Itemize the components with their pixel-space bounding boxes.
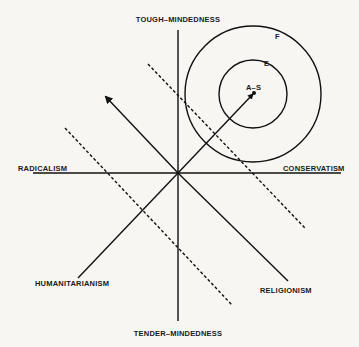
humanitarianism-axis	[78, 173, 178, 278]
label-f: F	[275, 32, 280, 41]
label-radicalism: RADICALISM	[18, 164, 67, 173]
label-religionism: RELIGIONISM	[260, 286, 312, 295]
arrow-upper-left	[106, 97, 178, 173]
label-e: E	[264, 59, 269, 68]
tough-tender-minded-diagram: TOUGH–MINDEDNESS TENDER–MINDEDNESS RADIC…	[0, 0, 359, 347]
dashed-line-upper	[148, 64, 305, 228]
label-conservatism: CONSERVATISM	[283, 164, 345, 173]
label-humanitarianism: HUMANITARIANISM	[35, 279, 109, 288]
label-tender-mindedness: TENDER–MINDEDNESS	[134, 329, 222, 338]
label-tough-mindedness: TOUGH–MINDEDNESS	[136, 15, 220, 24]
label-as: A–S	[246, 83, 261, 92]
